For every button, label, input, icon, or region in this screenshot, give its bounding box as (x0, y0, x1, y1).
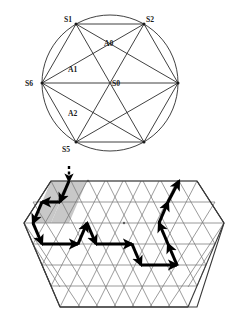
vertex-dot-s1 (75, 23, 78, 26)
figure-container: S1 S2 S6 S5 S0 A0 A1 A2 (0, 0, 245, 314)
vertex-dot-s3 (177, 82, 180, 85)
label-s6: S6 (25, 79, 33, 88)
walk-seg-6 (78, 223, 87, 244)
vertex-dot-s6 (41, 82, 44, 85)
hexagon-chord-s6-s4 (42, 83, 144, 142)
panel-bottom-lattice (24, 166, 224, 307)
vertex-dot-s4 (143, 141, 146, 144)
panel-top-hexagon: S1 S2 S6 S5 S0 A0 A1 A2 (25, 15, 180, 154)
label-s1: S1 (64, 15, 72, 24)
walk-seg-4 (33, 223, 42, 244)
sector-label-a1: A1 (68, 65, 77, 74)
figure-svg: S1 S2 S6 S5 S0 A0 A1 A2 (0, 0, 245, 314)
vertex-dot-s5 (75, 141, 78, 144)
hexagon-chord-s2-s6 (42, 24, 144, 83)
hexagon-chord-s1-s3 (76, 24, 178, 83)
walk-seg-11 (168, 244, 177, 265)
sector-label-a2: A2 (68, 109, 77, 118)
walk-seg-12 (159, 223, 168, 244)
walk-seg-14 (168, 181, 179, 202)
label-s2: S2 (146, 15, 154, 24)
hexagon-chord-s3-s5 (76, 83, 178, 142)
sector-label-a0: A0 (104, 39, 113, 48)
label-s0: S0 (112, 79, 120, 88)
walk-seg-7 (87, 223, 96, 244)
label-s5: S5 (62, 145, 70, 154)
walk-seg-13 (159, 202, 168, 223)
